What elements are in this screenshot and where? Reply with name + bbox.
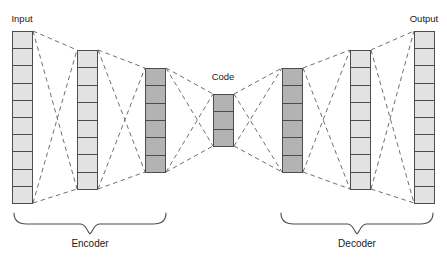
connection-line bbox=[166, 68, 213, 94]
connection-line bbox=[303, 50, 350, 68]
layer-unit-cell bbox=[415, 49, 435, 66]
layer-unit-cell bbox=[351, 68, 371, 85]
layer-unit-cell bbox=[78, 155, 98, 172]
layer-unit-cell bbox=[78, 85, 98, 102]
layer-unit-cell bbox=[13, 135, 33, 152]
connection-line bbox=[98, 50, 145, 68]
layer-unit-cell bbox=[415, 83, 435, 100]
layer-unit-cell bbox=[283, 121, 303, 138]
layer-unit-cell bbox=[146, 69, 166, 86]
layers-group bbox=[13, 32, 435, 204]
decoder-hidden-2 bbox=[351, 51, 371, 190]
connection-line bbox=[234, 68, 282, 94]
brace-path bbox=[14, 213, 166, 234]
conn-dec2-output bbox=[371, 31, 414, 203]
conn-enc2-code bbox=[166, 68, 213, 172]
layer-unit-cell bbox=[351, 103, 371, 120]
encoder-hidden-2 bbox=[146, 69, 166, 173]
autoencoder-diagram: InputCodeOutputEncoderDecoder bbox=[0, 0, 447, 263]
connection-line bbox=[303, 172, 350, 189]
layer-unit-cell bbox=[146, 103, 166, 120]
layer-unit-cell bbox=[351, 85, 371, 102]
input-layer-label: Input bbox=[11, 13, 32, 24]
layer-unit-cell bbox=[214, 95, 234, 112]
layer-unit-cell bbox=[13, 32, 33, 49]
layer-unit-cell bbox=[351, 120, 371, 137]
conn-input-enc1 bbox=[33, 31, 77, 203]
output-layer-label: Output bbox=[410, 13, 439, 24]
decoder-hidden-1 bbox=[283, 69, 303, 173]
layer-unit-cell bbox=[351, 155, 371, 172]
layer-unit-cell bbox=[146, 121, 166, 138]
layer-unit-cell bbox=[78, 103, 98, 120]
input-layer bbox=[13, 32, 33, 204]
brace-path bbox=[281, 213, 433, 234]
layer-unit-cell bbox=[78, 68, 98, 85]
layer-unit-cell bbox=[283, 138, 303, 155]
layer-unit-cell bbox=[146, 86, 166, 103]
connection-line bbox=[33, 31, 77, 50]
layer-unit-cell bbox=[13, 83, 33, 100]
connection-line bbox=[166, 94, 213, 172]
layer-unit-cell bbox=[78, 51, 98, 68]
layer-unit-cell bbox=[13, 100, 33, 117]
braces-group bbox=[14, 213, 433, 234]
connection-line bbox=[234, 146, 282, 172]
connection-line bbox=[303, 50, 350, 172]
connection-line bbox=[371, 50, 414, 203]
layer-unit-cell bbox=[146, 155, 166, 172]
connection-line bbox=[234, 94, 282, 172]
encoder-hidden-1 bbox=[78, 51, 98, 190]
layer-unit-cell bbox=[351, 137, 371, 154]
layer-unit-cell bbox=[415, 32, 435, 49]
connection-line bbox=[33, 31, 77, 189]
decoder-brace bbox=[281, 213, 433, 234]
layer-unit-cell bbox=[415, 169, 435, 186]
layer-unit-cell bbox=[214, 129, 234, 146]
conn-dec1-dec2 bbox=[303, 50, 350, 189]
layer-unit-cell bbox=[351, 172, 371, 189]
connection-line bbox=[234, 68, 282, 146]
layer-unit-cell bbox=[415, 66, 435, 83]
layer-unit-cell bbox=[415, 135, 435, 152]
layer-unit-cell bbox=[146, 138, 166, 155]
layer-unit-cell bbox=[78, 120, 98, 137]
conn-enc1-enc2 bbox=[98, 50, 145, 189]
code-layer bbox=[214, 95, 234, 147]
layer-unit-cell bbox=[13, 118, 33, 135]
connection-line bbox=[166, 68, 213, 146]
connection-line bbox=[371, 31, 414, 189]
layer-unit-cell bbox=[415, 152, 435, 169]
conn-code-dec1 bbox=[234, 68, 282, 172]
connection-line bbox=[166, 146, 213, 172]
connection-line bbox=[98, 172, 145, 189]
layer-unit-cell bbox=[13, 66, 33, 83]
code-layer-label: Code bbox=[212, 71, 235, 82]
output-layer bbox=[415, 32, 435, 204]
layer-unit-cell bbox=[78, 137, 98, 154]
layer-unit-cell bbox=[214, 112, 234, 129]
layer-unit-cell bbox=[415, 100, 435, 117]
layer-unit-cell bbox=[283, 155, 303, 172]
encoder-brace-label: Encoder bbox=[71, 238, 109, 249]
layer-unit-cell bbox=[283, 103, 303, 120]
connection-line bbox=[371, 31, 414, 50]
layer-unit-cell bbox=[13, 186, 33, 203]
layer-unit-cell bbox=[351, 51, 371, 68]
layer-unit-cell bbox=[13, 49, 33, 66]
encoder-brace bbox=[14, 213, 166, 234]
layer-unit-cell bbox=[13, 152, 33, 169]
layer-unit-cell bbox=[13, 169, 33, 186]
connection-line bbox=[98, 50, 145, 172]
layer-unit-cell bbox=[283, 69, 303, 86]
connection-line bbox=[303, 68, 350, 189]
connection-line bbox=[371, 189, 414, 203]
diagram-canvas: InputCodeOutputEncoderDecoder bbox=[0, 0, 447, 263]
layer-unit-cell bbox=[415, 118, 435, 135]
layer-unit-cell bbox=[78, 172, 98, 189]
connection-line bbox=[33, 189, 77, 203]
layer-unit-cell bbox=[283, 86, 303, 103]
connection-line bbox=[33, 50, 77, 203]
connection-line bbox=[98, 68, 145, 189]
layer-unit-cell bbox=[415, 186, 435, 203]
